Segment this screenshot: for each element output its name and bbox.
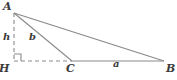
vertex-label-c: C [66,63,75,74]
right-angle-square-icon [14,54,21,61]
side-label-a: a [113,59,119,69]
vertex-label-a: A [3,1,12,12]
segment-ac [14,13,72,61]
geometry-figure: A B C H h b a [0,0,177,80]
vertex-label-h: H [0,63,9,74]
vertex-label-b: B [166,63,175,74]
triangle-drawing-canvas [0,0,177,80]
altitude-label-h: h [3,32,10,42]
segment-ab [14,13,164,61]
side-label-b: b [29,32,36,42]
